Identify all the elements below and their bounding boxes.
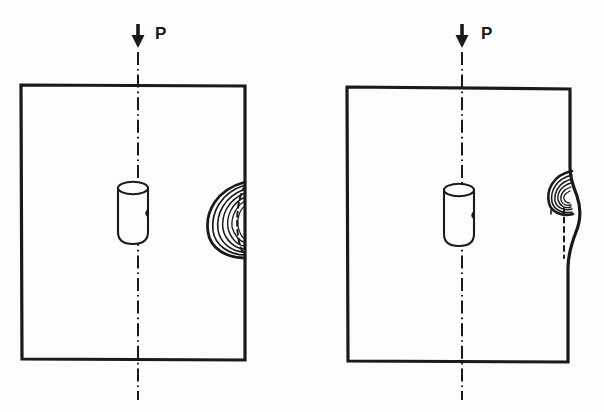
load-label-right: P <box>481 25 493 42</box>
left-panel <box>21 24 245 400</box>
load-arrow-icon-right <box>456 24 469 48</box>
hole-cylinder-right <box>444 184 474 246</box>
load-arrow-icon-left <box>132 24 145 48</box>
crack-zone-left <box>208 182 245 258</box>
figure-canvas <box>0 0 604 412</box>
right-panel <box>347 24 580 400</box>
crack-zone-right <box>548 171 573 258</box>
figure-root: P P <box>0 0 604 412</box>
load-label-left: P <box>155 25 167 42</box>
hole-cylinder-left <box>118 182 148 244</box>
